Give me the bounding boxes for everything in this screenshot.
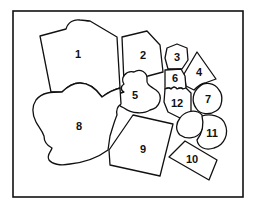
- region-5-label: 5: [132, 89, 138, 101]
- region-7-label: 7: [205, 93, 211, 105]
- region-6-label: 6: [172, 72, 178, 84]
- region-12-label: 12: [171, 97, 183, 109]
- region-3-label: 3: [174, 51, 180, 63]
- region-map-diagram: 1 2 3 4 5 6 7 8 9 10 11 12: [0, 0, 255, 208]
- region-1-label: 1: [75, 48, 81, 60]
- region-9-label: 9: [140, 143, 146, 155]
- region-5: [117, 70, 161, 112]
- region-11-label: 11: [206, 127, 218, 139]
- region-2-label: 2: [140, 49, 146, 61]
- region-8-label: 8: [76, 120, 82, 132]
- region-4-label: 4: [196, 66, 203, 78]
- region-10-label: 10: [186, 153, 198, 165]
